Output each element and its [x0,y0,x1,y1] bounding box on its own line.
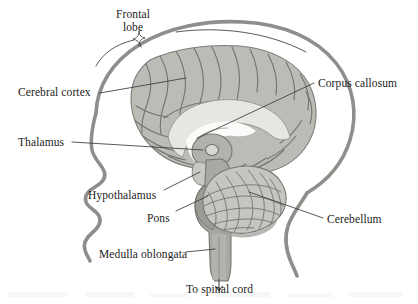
label-medulla-oblongata: Medulla oblongata [99,248,187,261]
brain-anatomy-figure: Frontal lobe Cerebral cortex Thalamus Hy… [0,0,418,304]
medulla-oblongata [212,234,226,280]
label-cerebral-cortex: Cerebral cortex [18,86,91,99]
label-pons: Pons [147,212,170,225]
label-frontal-lobe-line1: Frontal [104,8,162,21]
label-thalamus: Thalamus [18,136,64,149]
label-hypothalamus: Hypothalamus [88,189,156,202]
brain-diagram-svg [0,0,418,304]
label-cerebellum: Cerebellum [327,213,382,226]
label-frontal-lobe: Frontal lobe [104,8,162,34]
cerebellum [203,166,286,237]
label-corpus-callosum: Corpus callosum [318,77,397,90]
label-to-spinal-cord: To spinal cord [186,283,253,296]
label-frontal-lobe-line2: lobe [104,21,162,34]
